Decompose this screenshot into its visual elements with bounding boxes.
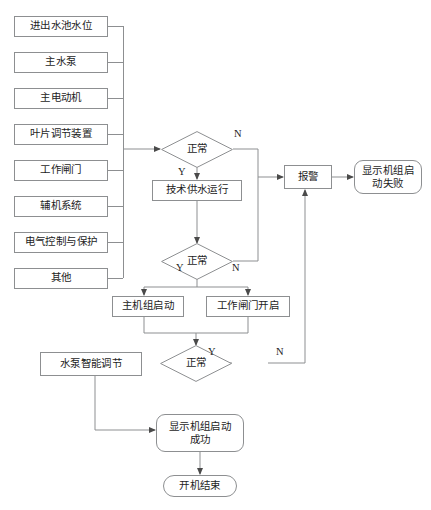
process-tech-water-supply[interactable]: 技术供水运行 [152,180,242,201]
condition-box-auxiliary-system[interactable]: 辅机系统 [14,196,108,217]
decision-label: 正常 [186,357,207,369]
flowchart-canvas: 进出水池水位 主水泵 主电动机 叶片调节装置 工作闸门 辅机系统 电气控制与保护… [0,0,431,510]
terminal-label-line1: 显示机组启 [362,164,414,177]
edge-label-decision1-yes: Y [178,166,186,177]
condition-label: 电气控制与保护 [25,236,98,248]
condition-label: 其他 [51,272,72,284]
wire-pump-to-success [95,376,155,430]
condition-box-main-water-pump[interactable]: 主水泵 [14,52,108,73]
condition-box-other[interactable]: 其他 [14,268,108,289]
terminal-display-start-failure[interactable]: 显示机组启 动失败 [354,160,422,194]
edge-label-decision3-no: N [276,346,284,357]
decision-label: 正常 [187,143,208,155]
terminal-label-line1: 显示机组启动 [169,420,231,433]
process-working-gate-open[interactable]: 工作闸门开启 [206,296,290,317]
decision-third-normal[interactable]: 正常 [160,345,232,382]
terminal-label-line2: 成功 [190,433,211,446]
decision-label: 正常 [187,255,208,267]
decision-first-normal[interactable]: 正常 [161,131,233,168]
edge-label-decision1-no: N [234,128,242,139]
process-label: 报警 [298,171,319,183]
condition-label: 工作闸门 [40,164,82,176]
process-label: 工作闸门开启 [217,300,279,312]
wire-decision3-no [268,190,305,363]
condition-label: 主水泵 [45,56,76,68]
process-label: 技术供水运行 [166,184,228,196]
condition-label: 辅机系统 [40,200,82,212]
decision-second-normal[interactable]: 正常 [161,243,233,280]
condition-label: 进出水池水位 [30,20,92,32]
terminal-label-line2: 动失败 [372,177,403,190]
process-pump-smart-adjust[interactable]: 水泵智能调节 [40,352,142,376]
process-alarm[interactable]: 报警 [284,165,332,189]
edge-label-decision2-yes: Y [176,262,184,273]
condition-box-working-gate[interactable]: 工作闸门 [14,160,108,181]
process-label: 主机组启动 [122,300,174,312]
terminal-startup-end[interactable]: 开机结束 [163,475,237,497]
process-main-unit-start[interactable]: 主机组启动 [112,296,184,317]
condition-box-main-motor[interactable]: 主电动机 [14,88,108,109]
terminal-display-start-success[interactable]: 显示机组启动 成功 [156,414,244,452]
edge-label-decision3-yes: Y [208,346,216,357]
condition-label: 叶片调节装置 [30,128,92,140]
wire-decision1-no [233,149,258,177]
process-label: 水泵智能调节 [60,358,122,370]
condition-box-blade-adjust-device[interactable]: 叶片调节装置 [14,124,108,145]
terminal-label: 开机结束 [179,480,221,492]
condition-box-electrical-control-protection[interactable]: 电气控制与保护 [14,232,108,253]
edge-label-decision2-no: N [232,262,240,273]
condition-label: 主电动机 [40,92,82,104]
condition-box-inlet-outlet-pool-level[interactable]: 进出水池水位 [14,16,108,37]
